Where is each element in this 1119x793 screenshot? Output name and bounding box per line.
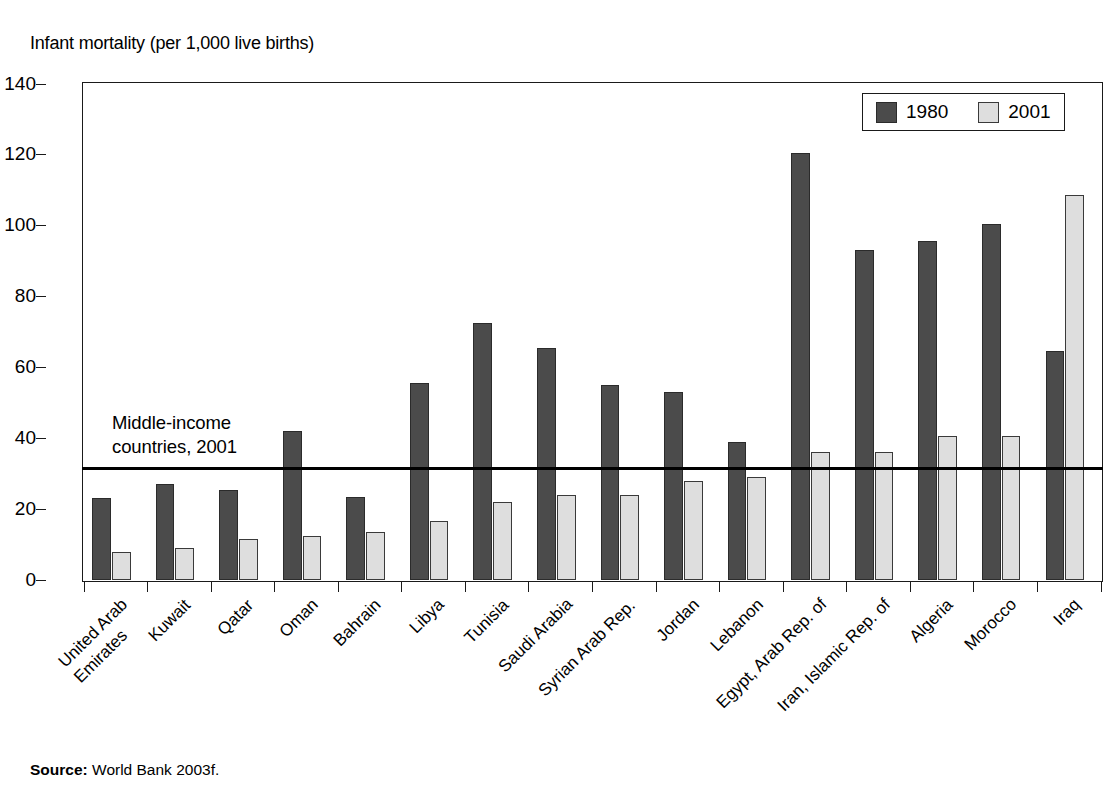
legend-item-2001: 2001 bbox=[978, 101, 1050, 123]
x-axis: United Arab EmiratesKuwaitQatarOmanBahra… bbox=[84, 581, 1101, 761]
x-axis-tick-mark bbox=[338, 581, 339, 592]
bar-group bbox=[846, 84, 910, 581]
bar-group bbox=[211, 84, 275, 581]
bar-1980 bbox=[92, 498, 111, 580]
x-axis-tick-mark bbox=[401, 581, 402, 592]
bar-1980 bbox=[791, 153, 810, 580]
x-axis-tick-mark bbox=[910, 581, 911, 592]
bar-1980 bbox=[601, 385, 620, 580]
legend-item-1980: 1980 bbox=[876, 101, 948, 123]
x-axis-tick-label: Iraq bbox=[1049, 594, 1085, 630]
reference-line bbox=[82, 467, 1103, 470]
x-axis-tick-mark bbox=[147, 581, 148, 592]
x-axis-tick-label: Lebanon bbox=[706, 594, 768, 656]
y-axis-tick-mark bbox=[36, 367, 46, 368]
x-axis-tick-label: Qatar bbox=[213, 595, 259, 641]
bar-1980 bbox=[855, 250, 874, 580]
y-axis-tick-label: 60 bbox=[15, 356, 36, 378]
y-axis-tick-mark bbox=[36, 296, 46, 297]
bar-2001 bbox=[303, 536, 322, 580]
plot-area bbox=[84, 84, 1101, 581]
bar-group bbox=[401, 84, 465, 581]
bar-1980 bbox=[410, 383, 429, 580]
bar-1980 bbox=[346, 497, 365, 580]
y-axis-tick-mark bbox=[36, 509, 46, 510]
y-axis-tick-label: 40 bbox=[15, 427, 36, 449]
y-axis-tick-mark bbox=[36, 580, 46, 581]
legend-swatch-2001-icon bbox=[978, 102, 999, 123]
y-axis-tick-label: 120 bbox=[4, 143, 36, 165]
bar-2001 bbox=[747, 477, 766, 580]
x-axis-tick-mark bbox=[592, 581, 593, 592]
x-axis-tick-label: Algeria bbox=[905, 595, 958, 648]
bar-group bbox=[719, 84, 783, 581]
bar-group bbox=[338, 84, 402, 581]
y-axis-tick-mark bbox=[36, 438, 46, 439]
x-axis-tick-mark bbox=[656, 581, 657, 592]
bar-group bbox=[1037, 84, 1101, 581]
bar-1980 bbox=[918, 241, 937, 580]
bar-2001 bbox=[239, 539, 258, 580]
bar-2001 bbox=[620, 495, 639, 580]
y-axis-tick-label: 20 bbox=[15, 498, 36, 520]
bar-group bbox=[465, 84, 529, 581]
bar-2001 bbox=[1065, 195, 1084, 580]
bar-1980 bbox=[283, 431, 302, 580]
bar-2001 bbox=[875, 452, 894, 580]
bar-1980 bbox=[982, 224, 1001, 580]
bar-group bbox=[910, 84, 974, 581]
x-axis-tick-label: Morocco bbox=[960, 594, 1022, 656]
bar-group bbox=[84, 84, 148, 581]
x-axis-tick-label: Kuwait bbox=[144, 594, 196, 646]
bar-2001 bbox=[1002, 436, 1021, 580]
bar-2001 bbox=[684, 481, 703, 580]
x-axis-tick-label: Bahrain bbox=[329, 595, 386, 652]
x-axis-tick-mark bbox=[465, 581, 466, 592]
bar-2001 bbox=[493, 502, 512, 580]
bar-1980 bbox=[728, 442, 747, 580]
source-text: World Bank 2003f. bbox=[92, 761, 219, 778]
x-axis-tick-label: Jordan bbox=[652, 594, 704, 646]
y-axis-tick-mark bbox=[36, 154, 46, 155]
y-axis-tick-label: 80 bbox=[15, 285, 36, 307]
bar-1980 bbox=[537, 348, 556, 580]
x-axis-tick-label: United Arab Emirates bbox=[54, 595, 148, 689]
x-axis-tick-mark bbox=[973, 581, 974, 592]
bar-group bbox=[147, 84, 211, 581]
bar-2001 bbox=[938, 436, 957, 580]
bar-2001 bbox=[112, 552, 131, 580]
y-axis-tick-label: 0 bbox=[25, 569, 36, 591]
legend-label-2001: 2001 bbox=[1008, 101, 1050, 123]
x-axis-tick-mark bbox=[1101, 581, 1102, 592]
legend-label-1980: 1980 bbox=[906, 101, 948, 123]
source-note: Source: World Bank 2003f. bbox=[30, 761, 219, 779]
x-axis-tick-label: Libya bbox=[405, 595, 449, 639]
x-axis-tick-label: Oman bbox=[275, 594, 323, 642]
y-axis-tick-label: 140 bbox=[4, 73, 36, 95]
bar-1980 bbox=[473, 323, 492, 580]
bar-group bbox=[656, 84, 720, 581]
bar-2001 bbox=[175, 548, 194, 580]
bar-group bbox=[528, 84, 592, 581]
bar-group bbox=[592, 84, 656, 581]
bar-1980 bbox=[156, 484, 175, 580]
x-axis-tick-mark bbox=[783, 581, 784, 592]
bar-group bbox=[783, 84, 847, 581]
x-axis-tick-mark bbox=[274, 581, 275, 592]
x-axis-tick-label: Tunisia bbox=[460, 594, 514, 648]
bar-group bbox=[274, 84, 338, 581]
x-axis-tick-mark bbox=[846, 581, 847, 592]
y-axis-tick-mark bbox=[36, 84, 46, 85]
chart-legend: 1980 2001 bbox=[862, 93, 1065, 131]
y-axis-tick-mark bbox=[36, 225, 46, 226]
bar-2001 bbox=[811, 452, 830, 580]
bar-2001 bbox=[557, 495, 576, 580]
x-axis-tick-label: Iran, Islamic Rep. of bbox=[773, 594, 896, 717]
bar-1980 bbox=[664, 392, 683, 580]
bar-2001 bbox=[430, 521, 449, 580]
bar-1980 bbox=[219, 490, 238, 580]
x-axis-tick-mark bbox=[528, 581, 529, 592]
x-axis-tick-mark bbox=[84, 581, 85, 592]
x-axis-tick-mark bbox=[1037, 581, 1038, 592]
x-axis-tick-mark bbox=[211, 581, 212, 592]
